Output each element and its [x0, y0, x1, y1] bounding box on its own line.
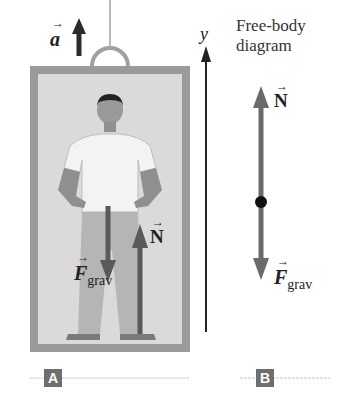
y-axis-label: y [200, 24, 208, 45]
vector-arrow-icon: → [277, 254, 289, 269]
y-axis [201, 46, 211, 332]
body-point [255, 196, 267, 208]
diagram-graphics [0, 0, 348, 416]
gravity-force-arrowhead-b [253, 258, 269, 280]
panel-b-tag: B [256, 369, 274, 387]
acceleration-arrow [72, 18, 86, 56]
free-body-title: Free-body diagram [236, 16, 306, 56]
gravity-force-label-a: → Fgrav [74, 262, 112, 285]
normal-force-label-a: → N [150, 226, 164, 248]
vector-arrow-icon: → [152, 215, 164, 230]
vector-arrow-icon: → [77, 250, 89, 265]
normal-force-label-b: → N [274, 90, 288, 112]
acceleration-label: → a [50, 28, 60, 51]
vector-arrow-icon: → [52, 16, 64, 31]
vector-arrow-icon: → [276, 79, 288, 94]
elevator-hook [92, 48, 128, 66]
gravity-force-label-b: → Fgrav [274, 266, 312, 289]
free-body-diagram [253, 86, 269, 280]
normal-force-arrowhead-b [253, 86, 269, 108]
panel-a-tag: A [44, 369, 62, 387]
